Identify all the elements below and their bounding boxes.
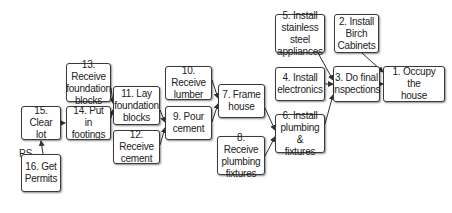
- node-install-birch-cabinets[interactable]: 2. Install Birch Cabinets: [334, 14, 379, 53]
- node-receive-cement[interactable]: 12. Receive cement: [113, 130, 160, 164]
- node-pour-cement[interactable]: 9. Pour cement: [165, 106, 212, 140]
- node-lay-foundation[interactable]: 11. Lay foundation blocks: [113, 86, 160, 125]
- node-final-inspections[interactable]: 3. Do final inspections: [333, 66, 380, 102]
- node-receive-foundation-blocks[interactable]: 13. Receive foundation blocks: [66, 63, 111, 102]
- node-put-in-footings[interactable]: 14. Put in footings: [66, 106, 111, 140]
- node-receive-plumbing[interactable]: 8. Receive plumbing fixtures: [217, 136, 265, 175]
- node-install-appliances[interactable]: 5. Install stainless steel appliances: [275, 14, 325, 53]
- node-occupy-house[interactable]: 1. Occupy the house: [383, 66, 445, 102]
- node-receive-lumber[interactable]: 10. Receive lumber: [165, 66, 212, 100]
- node-clear-lot[interactable]: 15. Clear lot: [21, 106, 61, 140]
- node-frame-house[interactable]: 7. Frame house: [218, 84, 265, 118]
- node-install-electronics[interactable]: 4. Install electronics: [275, 67, 325, 101]
- node-install-plumbing[interactable]: 6. Install plumbing & fixtures: [275, 114, 325, 153]
- node-get-permits[interactable]: 16. Get Permits: [21, 154, 61, 192]
